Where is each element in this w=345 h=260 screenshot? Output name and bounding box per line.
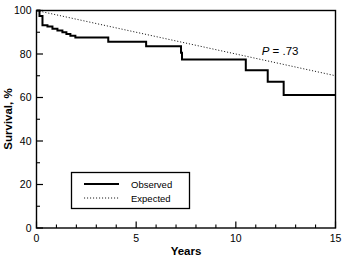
x-tick-label: 0 xyxy=(34,232,40,244)
x-tick-label: 10 xyxy=(230,232,242,244)
x-tick-label: 15 xyxy=(330,232,342,244)
y-tick-label: 100 xyxy=(14,4,32,16)
legend-label-observed: Observed xyxy=(131,179,172,190)
chart-legend: Observed Expected xyxy=(72,173,190,209)
chart-background xyxy=(0,0,345,260)
chart-canvas: 020406080100 051015 Years Survival, % P … xyxy=(0,0,345,260)
x-tick-label: 5 xyxy=(133,232,139,244)
x-axis-title: Years xyxy=(171,245,202,257)
y-tick-label: 20 xyxy=(20,178,32,190)
legend-label-expected: Expected xyxy=(131,193,171,204)
y-axis-title: Survival, % xyxy=(2,88,14,149)
p-value-annotation: P = .73 xyxy=(262,45,299,57)
y-tick-label: 0 xyxy=(26,222,32,234)
survival-chart-figure: 020406080100 051015 Years Survival, % P … xyxy=(0,0,345,260)
y-tick-label: 60 xyxy=(20,91,32,103)
y-tick-label: 80 xyxy=(20,48,32,60)
y-tick-label: 40 xyxy=(20,135,32,147)
p-value-text: = .73 xyxy=(269,45,298,57)
